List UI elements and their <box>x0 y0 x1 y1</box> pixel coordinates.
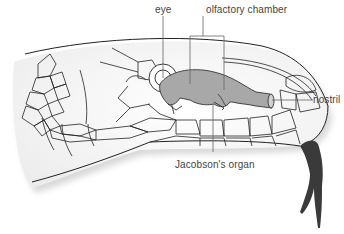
snake-head-illustration <box>0 0 344 234</box>
snake-head <box>13 42 328 188</box>
label-olfactory-chamber: olfactory chamber <box>206 4 287 15</box>
tongue <box>300 140 323 228</box>
label-jacobsons-organ: Jacobson's organ <box>175 159 255 170</box>
nostril-opening <box>268 94 274 108</box>
snake-head-diagram: eye olfactory chamber nostril Jacobson's… <box>0 0 344 234</box>
label-eye: eye <box>155 4 171 15</box>
label-nostril: nostril <box>313 94 340 105</box>
